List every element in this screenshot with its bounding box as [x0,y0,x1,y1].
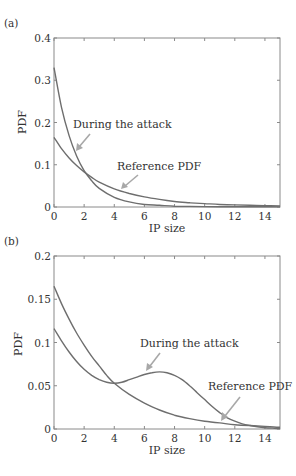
y-tick-label: 0.1 [34,337,51,349]
panel-b-label: (b) [4,235,19,247]
x-tick-label: 14 [258,210,272,222]
x-tick-label: 0 [51,432,58,444]
panel-b-y-axis-label: PDF [12,332,25,356]
panel-a-arrow-during-attack [76,134,90,151]
y-tick-label: 0.15 [28,293,51,305]
y-tick-label: 0.2 [34,117,51,129]
y-tick-label: 0.2 [34,250,51,262]
x-tick-label: 8 [171,432,178,444]
panel-a-arrow-reference-pdf [121,175,138,189]
x-tick-label: 0 [51,210,58,222]
y-tick-label: 0 [44,423,51,435]
panel-a-annotation-during-attack: During the attack [73,118,172,131]
x-tick-label: 12 [228,210,241,222]
x-tick-label: 10 [198,432,211,444]
figure: (a) 02468101214 00.10.20.30.4 IP size PD… [0,0,296,476]
panel-b-arrow-during-attack [146,353,160,371]
x-tick-label: 2 [81,432,88,444]
y-tick-label: 0.1 [34,159,51,171]
x-tick-label: 6 [141,432,148,444]
x-tick-label: 2 [81,210,88,222]
panel-b-series-reference-pdf [54,286,280,427]
figure-canvas: (a) 02468101214 00.10.20.30.4 IP size PD… [0,0,296,476]
panel-a-annotation-reference-pdf: Reference PDF [117,160,202,173]
panel-a-label: (a) [4,17,18,29]
x-tick-label: 10 [198,210,211,222]
x-tick-label: 12 [228,432,241,444]
panel-a-y-axis-label: PDF [16,110,29,134]
x-tick-label: 4 [111,432,118,444]
y-tick-label: 0.05 [28,380,51,392]
panel-a: (a) 02468101214 00.10.20.30.4 IP size PD… [4,17,280,235]
y-tick-label: 0 [44,201,51,213]
panel-b-annotation-reference-pdf: Reference PDF [208,380,293,393]
y-tick-label: 0.3 [34,74,51,86]
panel-b-annotation-during-attack: During the attack [140,337,239,350]
x-tick-label: 14 [258,432,272,444]
panel-b-x-axis-label: IP size [149,444,186,457]
x-tick-label: 8 [171,210,178,222]
x-tick-label: 4 [111,210,118,222]
y-tick-label: 0.4 [34,32,51,44]
panel-a-x-axis-label: IP size [149,222,186,235]
panel-b-arrow-reference-pdf [221,397,240,421]
panel-b-x-ticks: 02468101214 [51,256,272,444]
x-tick-label: 6 [141,210,148,222]
panel-b: (b) 02468101214 00.050.10.150.2 IP size … [4,235,293,457]
